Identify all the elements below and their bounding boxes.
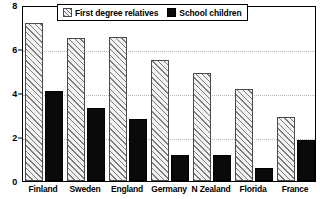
bar-germany-series-2 [171, 155, 189, 181]
x-tick-label-florida: Florida [232, 185, 274, 194]
bar-group [107, 7, 149, 181]
x-tick-label-germany: Germany [148, 185, 190, 194]
legend-entry-2: School children [167, 8, 241, 18]
y-tick-label: 4 [12, 90, 17, 99]
x-axis: FinlandSwedenEnglandGermanyN ZealandFlor… [22, 183, 316, 199]
x-tick-label-n-zealand: N Zealand [190, 185, 232, 194]
bar-france-series-1 [277, 117, 295, 181]
bar-n-zealand-series-2 [213, 155, 231, 181]
chart-legend: First degree relativesSchool children [57, 4, 248, 21]
x-tick-label-sweden: Sweden [64, 185, 106, 194]
legend-entry-1: First degree relatives [63, 8, 158, 18]
bar-group [65, 7, 107, 181]
bar-florida-series-2 [255, 168, 273, 181]
bar-group [23, 7, 65, 181]
x-tick-label-finland: Finland [22, 185, 64, 194]
bar-france-series-2 [297, 140, 315, 181]
bar-group [233, 7, 275, 181]
y-tick-label: 2 [12, 134, 17, 143]
legend-label: School children [179, 8, 241, 18]
x-tick-label-england: England [106, 185, 148, 194]
solid-swatch-icon [167, 8, 176, 17]
bar-group [149, 7, 191, 181]
hatched-swatch-icon [63, 8, 72, 17]
bar-sweden-series-2 [87, 108, 105, 181]
bar-chart: 02468 FinlandSwedenEnglandGermanyN Zeala… [0, 0, 320, 199]
y-tick-label: 6 [12, 46, 17, 55]
legend-label: First degree relatives [75, 8, 158, 18]
bar-germany-series-1 [151, 60, 169, 181]
bar-finland-series-1 [25, 23, 43, 181]
bar-florida-series-1 [235, 89, 253, 181]
bar-sweden-series-1 [67, 38, 85, 181]
bar-england-series-1 [109, 37, 127, 181]
bar-england-series-2 [129, 119, 147, 181]
y-axis: 02468 [0, 0, 22, 199]
bar-n-zealand-series-1 [193, 73, 211, 181]
bar-group [275, 7, 316, 181]
bar-group [191, 7, 233, 181]
y-tick-label: 0 [12, 178, 17, 187]
x-tick-label-france: France [274, 185, 316, 194]
bars-layer [23, 7, 315, 181]
bar-finland-series-2 [45, 91, 63, 181]
y-tick-label: 8 [12, 2, 17, 11]
plot-area [22, 6, 316, 182]
